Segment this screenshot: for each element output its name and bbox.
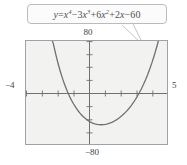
x-max-label: 5: [172, 80, 177, 90]
equation-callout-box: y=x4−3x3+6x2+2x−60: [27, 4, 167, 24]
equation-constant: 60: [130, 9, 140, 20]
y-min-label: −80: [85, 147, 99, 157]
y-max-label: 80: [84, 27, 93, 37]
x-min-label: −4: [5, 80, 15, 90]
graph-window: [25, 40, 168, 145]
equation-text: y=x4−3x3+6x2+2x−60: [53, 9, 140, 20]
figure-canvas: y=x4−3x3+6x2+2x−60: [0, 0, 187, 165]
quartic-curve: [52, 41, 158, 125]
graph-svg: [26, 41, 168, 145]
